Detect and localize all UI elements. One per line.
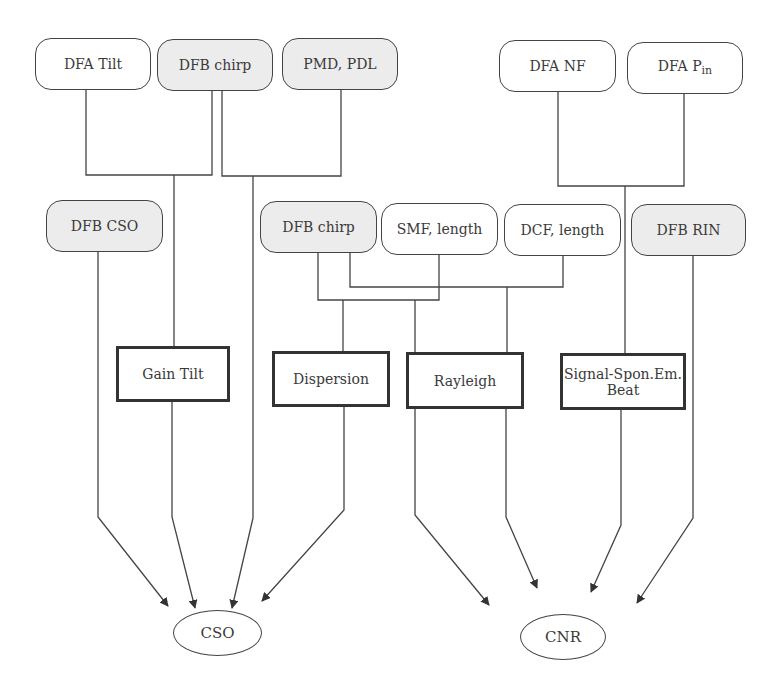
node-label: Rayleigh bbox=[434, 373, 496, 389]
node-label: Dispersion bbox=[293, 371, 369, 387]
node-signal-spon-em-beat: Signal-Spon.Em. Beat bbox=[560, 353, 686, 410]
node-dfa-nf: DFA NF bbox=[499, 40, 616, 92]
node-label: DFA Tilt bbox=[64, 56, 122, 72]
node-dfb-chirp-top: DFB chirp bbox=[157, 39, 273, 91]
node-label: DFB CSO bbox=[71, 218, 138, 234]
node-label: DCF, length bbox=[521, 222, 605, 238]
node-label: DFB chirp bbox=[282, 219, 355, 235]
node-label: DFB RIN bbox=[657, 222, 721, 238]
node-cso-output: CSO bbox=[173, 610, 262, 656]
node-dfa-pin: DFA Pin bbox=[627, 42, 743, 94]
node-dfb-chirp-mid: DFB chirp bbox=[260, 201, 377, 253]
node-label: DFB chirp bbox=[179, 57, 252, 73]
node-label: DFA Pin bbox=[658, 58, 712, 79]
node-label: PMD, PDL bbox=[303, 56, 376, 72]
node-dcf-length: DCF, length bbox=[504, 204, 621, 256]
node-label: SMF, length bbox=[397, 221, 483, 237]
node-label: DFA NF bbox=[529, 58, 585, 74]
node-dispersion: Dispersion bbox=[272, 351, 390, 407]
node-cnr-output: CNR bbox=[520, 614, 606, 660]
node-label-line1: Signal-Spon.Em. bbox=[564, 366, 682, 382]
node-dfb-rin: DFB RIN bbox=[631, 204, 746, 256]
node-label: CSO bbox=[200, 625, 234, 641]
node-rayleigh: Rayleigh bbox=[406, 352, 524, 409]
node-dfa-tilt: DFA Tilt bbox=[35, 38, 151, 90]
node-dfb-cso: DFB CSO bbox=[46, 200, 163, 252]
node-smf-length: SMF, length bbox=[381, 203, 498, 255]
node-pmd-pdl: PMD, PDL bbox=[282, 38, 398, 90]
node-gain-tilt: Gain Tilt bbox=[116, 346, 230, 402]
node-label: CNR bbox=[545, 629, 581, 645]
node-label: Gain Tilt bbox=[142, 366, 203, 382]
node-label-line2: Beat bbox=[607, 382, 640, 398]
